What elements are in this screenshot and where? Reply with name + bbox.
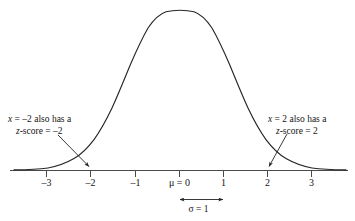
tick-label-neg1: –1 [121, 177, 150, 189]
tick-label-mean-zero: μ = 0 [155, 177, 204, 189]
normal-distribution-curve [14, 10, 346, 170]
left-callout-line1-rest: = –2 also has a [12, 114, 71, 124]
normal-curve-figure: x = –2 also has a z-score = –2 x = 2 als… [0, 0, 355, 221]
left-callout-line1: x = –2 also has a [8, 114, 71, 126]
sigma-label: σ = 1 [189, 204, 209, 214]
right-leader-arrow [269, 134, 287, 167]
left-callout-text: x = –2 also has a z-score = –2 [8, 114, 71, 137]
sigma-label-wrap: σ = 1 [0, 204, 355, 215]
tick-label-pos3: 3 [297, 177, 326, 189]
tick-label-pos2: 2 [253, 177, 282, 189]
tick-label-neg2: –2 [76, 177, 105, 189]
tick-label-pos1: 1 [209, 177, 238, 189]
left-callout-line2-rest: -score = –2 [20, 126, 63, 136]
right-callout-text: x = 2 also has a z-score = 2 [268, 114, 326, 137]
tick-label-neg3: –3 [32, 177, 61, 189]
left-callout-line2: z-score = –2 [8, 126, 71, 138]
right-callout-line1-rest: = 2 also has a [272, 114, 326, 124]
right-callout-line2: z-score = 2 [268, 126, 326, 138]
right-callout-line1: x = 2 also has a [268, 114, 326, 126]
right-callout-line2-rest: -score = 2 [280, 126, 318, 136]
